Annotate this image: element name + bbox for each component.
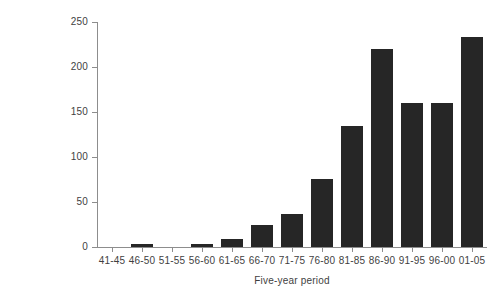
bars-group: [0, 0, 490, 303]
bar-81-85: [341, 126, 363, 248]
x-axis-title: Five-year period: [97, 275, 487, 286]
bar-chart: Number of birds 050100150200250 41-4546-…: [0, 0, 490, 303]
bar-76-80: [311, 179, 333, 247]
bar-46-50: [131, 244, 153, 247]
bar-01-05: [461, 37, 483, 247]
bar-71-75: [281, 214, 303, 247]
bar-91-95: [401, 103, 423, 247]
bar-61-65: [221, 239, 243, 247]
bar-86-90: [371, 49, 393, 247]
bar-66-70: [251, 225, 273, 248]
bar-96-00: [431, 103, 453, 247]
bar-56-60: [191, 244, 213, 247]
